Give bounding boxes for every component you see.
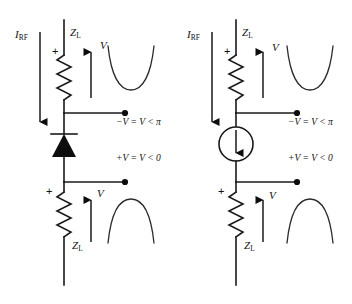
left-upper-resistor-icon (57, 55, 71, 100)
left-lower-z-label: ZL (72, 240, 83, 253)
circuit-diagram: IRF + ZL V −V = V < π +V = V < 0 + V ZL … (0, 0, 352, 304)
right-lower-v-label: V (269, 190, 276, 201)
right-lower-waveform-peak (287, 199, 333, 243)
left-upper-waveform-valley (108, 46, 154, 90)
right-irf-label: IRF (187, 29, 200, 42)
right-current-source-symbol-icon (219, 127, 253, 161)
right-lower-resistor-icon (229, 192, 243, 237)
left-lower-node-equation: +V = V < 0 (116, 154, 161, 164)
right-lower-polarity-label: + (218, 186, 224, 197)
left-lower-resistor-icon (57, 192, 71, 237)
right-upper-resistor-icon (229, 55, 243, 100)
right-upper-node-dot (294, 110, 300, 116)
right-upper-waveform-valley (287, 46, 333, 90)
right-upper-z-label: ZL (242, 27, 253, 40)
left-upper-z-label: ZL (70, 27, 81, 40)
left-lower-v-label: V (97, 188, 104, 199)
left-upper-node-dot (122, 110, 128, 116)
right-lower-z-label: ZL (244, 240, 255, 253)
right-upper-v-label: V (272, 42, 279, 53)
left-lower-polarity-label: + (46, 186, 52, 197)
left-diode-symbol-icon (51, 134, 77, 157)
left-upper-node-equation: −V = V < π (116, 118, 161, 128)
left-lower-waveform-peak (108, 199, 154, 243)
right-lower-node-dot (294, 179, 300, 185)
left-irf-label: IRF (15, 29, 28, 42)
left-upper-v-label: V (100, 40, 107, 51)
right-upper-polarity-label: + (224, 46, 230, 57)
right-lower-node-equation: +V = V < 0 (288, 154, 333, 164)
left-lower-node-dot (122, 179, 128, 185)
left-upper-polarity-label: + (52, 46, 58, 57)
right-upper-node-equation: −V = V < π (288, 118, 333, 128)
